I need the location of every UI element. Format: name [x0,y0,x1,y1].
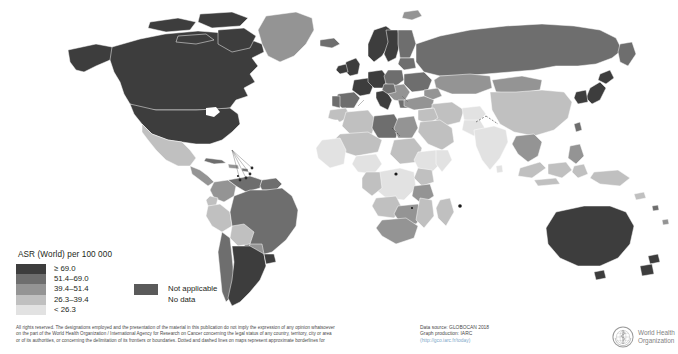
legend-labels: ≥ 69.0 51.4–69.0 39.4–51.4 26.3–39.4 < 2… [54,264,89,315]
legend-extra: Not applicable No data [134,284,217,304]
legend-class-row [16,274,46,284]
source-url-link[interactable]: (http://gco.iarc.fr/today) [420,338,590,344]
disclaimer-line: or of its authorities, or concerning the… [16,338,411,344]
legend-class-row [16,295,46,305]
disclaimer: All rights reserved. The designations em… [16,325,411,344]
legend-label-not-applicable: Not applicable [168,284,217,294]
footer: All rights reserved. The designations em… [0,320,678,354]
country-western-sahara [326,120,340,132]
who-line-1: World Health [638,329,675,337]
legend-color-ramp [16,264,46,315]
legend-swatch [16,264,46,274]
who-logo: World Health Organization [612,326,675,348]
legend-label: ≥ 69.0 [54,264,89,274]
legend-label: < 26.3 [54,305,89,315]
country-new-zealand-n [648,254,660,264]
who-emblem-icon [612,326,634,348]
legend-class-row [16,305,46,315]
legend-swatch [16,274,46,284]
country-hispaniola [228,164,239,169]
legend-label: 39.4–51.4 [54,284,89,294]
country-tasmania [594,270,606,280]
source-block: Data source: GLOBOCAN 2018 Graph product… [420,325,590,344]
legend-class-row [16,264,46,274]
country-portugal [332,96,340,108]
legend-class-row [16,284,46,294]
country-pacific-island-2 [662,219,669,225]
legend-not-applicable-row: Not applicable [134,284,217,294]
legend-body: ≥ 69.0 51.4–69.0 39.4–51.4 26.3–39.4 < 2… [16,264,266,315]
who-wordmark: World Health Organization [638,329,675,344]
legend-swatch [16,295,46,305]
who-line-2: Organization [638,337,675,345]
legend-title: ASR (World) per 100 000 [18,250,266,259]
legend-label: 51.4–69.0 [54,274,89,284]
country-sri-lanka [496,165,503,173]
legend-swatch [16,284,46,294]
legend: ASR (World) per 100 000 [16,250,266,315]
figure-root: ASR (World) per 100 000 [0,0,678,354]
country-new-zealand-s [640,264,654,276]
legend-swatch-not-applicable [134,284,158,294]
legend-no-data-row: No data [134,295,217,305]
legend-swatch [16,305,46,315]
legend-label: 26.3–39.4 [54,295,89,305]
legend-label-no-data: No data [168,295,195,305]
country-pacific-island-1 [652,205,659,211]
legend-swatch-no-data [134,295,158,305]
